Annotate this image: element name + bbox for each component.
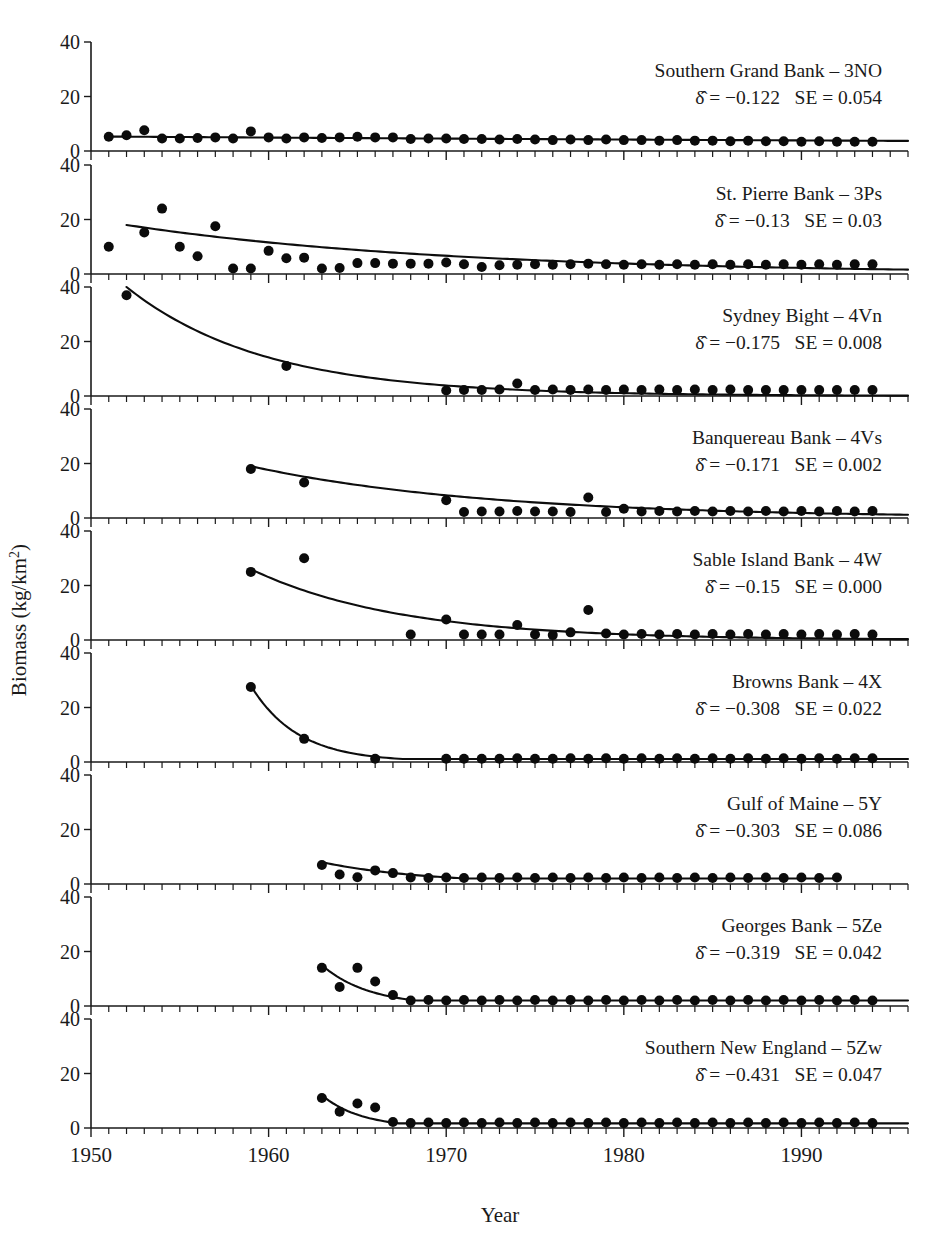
- data-point: [530, 1118, 540, 1128]
- data-point: [690, 754, 700, 764]
- data-point: [690, 872, 700, 882]
- data-point: [672, 506, 682, 516]
- x-axis-tick-label: 1960: [248, 1143, 290, 1167]
- data-point: [672, 753, 682, 763]
- data-point: [495, 995, 505, 1005]
- data-point: [548, 506, 558, 516]
- data-point: [317, 860, 327, 870]
- data-point: [441, 495, 451, 505]
- data-point: [708, 1118, 718, 1128]
- data-point: [530, 135, 540, 145]
- data-point: [193, 133, 203, 143]
- data-point: [228, 264, 238, 274]
- y-axis-tick-label: 20: [60, 86, 80, 108]
- data-point: [335, 1107, 345, 1117]
- data-point: [175, 133, 185, 143]
- data-point: [796, 872, 806, 882]
- data-point: [406, 630, 416, 640]
- data-point: [850, 629, 860, 639]
- data-point: [832, 506, 842, 516]
- y-axis-tick-label: 20: [60, 819, 80, 841]
- data-point: [122, 290, 132, 300]
- data-point: [814, 385, 824, 395]
- data-point: [832, 630, 842, 640]
- data-point: [654, 872, 664, 882]
- data-point: [406, 1118, 416, 1128]
- y-axis-tick-label: 20: [60, 697, 80, 719]
- data-point: [850, 506, 860, 516]
- data-point: [299, 132, 309, 142]
- figure-container: 02040Southern Grand Bank – 3NOδ̂ = −0.12…: [0, 0, 929, 1238]
- data-point: [370, 1103, 380, 1113]
- data-point: [654, 384, 664, 394]
- data-point: [583, 259, 593, 269]
- data-point: [157, 204, 167, 214]
- data-point: [725, 872, 735, 882]
- data-point: [495, 506, 505, 516]
- data-point: [566, 385, 576, 395]
- data-point: [512, 996, 522, 1006]
- data-point: [122, 130, 132, 140]
- y-axis-tick-label: 40: [60, 276, 80, 298]
- data-point: [672, 385, 682, 395]
- data-point: [601, 135, 611, 145]
- data-point: [406, 872, 416, 882]
- data-point: [619, 872, 629, 882]
- data-point: [512, 1118, 522, 1128]
- data-point: [814, 995, 824, 1005]
- data-point: [637, 873, 647, 883]
- data-point: [566, 507, 576, 517]
- data-point: [761, 506, 771, 516]
- panel-title: Sydney Bight – 4Vn: [722, 305, 882, 326]
- data-point: [725, 260, 735, 270]
- data-point: [708, 385, 718, 395]
- data-point: [850, 137, 860, 147]
- data-point: [690, 1118, 700, 1128]
- svg-text:Biomass (kg/km2): Biomass (kg/km2): [7, 544, 31, 696]
- data-point: [459, 507, 469, 517]
- data-point: [654, 260, 664, 270]
- panel-title: Browns Bank – 4X: [732, 671, 882, 692]
- data-point: [246, 126, 256, 136]
- data-point: [512, 260, 522, 270]
- data-point: [441, 754, 451, 764]
- y-axis-tick-label: 20: [60, 575, 80, 597]
- data-point: [761, 872, 771, 882]
- data-point: [672, 259, 682, 269]
- panel-stats: δ̂ = −0.15 SE = 0.000: [705, 576, 882, 597]
- data-point: [530, 385, 540, 395]
- data-point: [619, 260, 629, 270]
- data-point: [459, 995, 469, 1005]
- data-point: [548, 260, 558, 270]
- data-point: [512, 506, 522, 516]
- data-point: [459, 873, 469, 883]
- data-point: [583, 605, 593, 615]
- data-point: [388, 868, 398, 878]
- data-point: [654, 754, 664, 764]
- y-axis-tick-label: 20: [60, 941, 80, 963]
- data-point: [583, 1118, 593, 1128]
- data-point: [104, 242, 114, 252]
- data-point: [743, 753, 753, 763]
- data-point: [867, 259, 877, 269]
- data-point: [157, 133, 167, 143]
- data-point: [814, 753, 824, 763]
- data-point: [619, 504, 629, 514]
- data-point: [441, 615, 451, 625]
- data-point: [548, 384, 558, 394]
- data-point: [583, 493, 593, 503]
- data-point: [512, 753, 522, 763]
- data-point: [814, 1118, 824, 1128]
- data-point: [743, 995, 753, 1005]
- x-axis-tick-label: 1980: [603, 1143, 645, 1167]
- panel-stats: δ̂ = −0.431 SE = 0.047: [695, 1064, 882, 1085]
- data-point: [548, 872, 558, 882]
- data-point: [761, 754, 771, 764]
- data-point: [246, 567, 256, 577]
- data-point: [530, 630, 540, 640]
- x-axis-tick-label: 1950: [70, 1143, 112, 1167]
- panel-title: Southern New England – 5Zw: [645, 1037, 882, 1058]
- data-point: [637, 629, 647, 639]
- data-point: [441, 996, 451, 1006]
- data-point: [495, 1118, 505, 1128]
